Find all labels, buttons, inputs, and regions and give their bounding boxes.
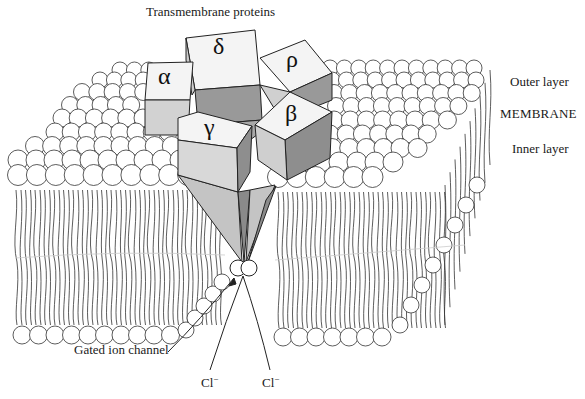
- left-midline: [15, 253, 225, 258]
- left-inner-heads: [13, 274, 230, 344]
- right-inner-heads: [274, 177, 485, 346]
- subunit-gamma-label: γ: [204, 114, 215, 141]
- membrane-label: MEMBRANE: [500, 106, 577, 122]
- subunit-rho-label: ρ: [286, 46, 298, 73]
- chloride-ion-label-1: Cl−: [201, 374, 218, 391]
- inner-layer-label: Inner layer: [512, 141, 569, 157]
- outer-layer-label: Outer layer: [510, 74, 569, 90]
- subunit-beta-label: β: [285, 100, 297, 127]
- subunit-delta-label: δ: [213, 33, 224, 60]
- subunit-alpha-label: α: [158, 63, 171, 90]
- left-bilayer-tails: [15, 190, 222, 325]
- gated-ion-channel-label: Gated ion channel: [74, 342, 169, 358]
- chloride-ion-label-2: Cl−: [262, 374, 279, 391]
- gate: [230, 260, 257, 276]
- membrane-diagram: δ α ρ γ β Transmembrane proteins Outer l…: [0, 0, 585, 399]
- figure-title: Transmembrane proteins: [146, 4, 275, 20]
